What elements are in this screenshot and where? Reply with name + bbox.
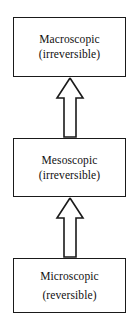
box-macroscopic-qualifier: (irreversible) xyxy=(39,47,100,62)
box-microscopic-qualifier: (reversible) xyxy=(42,286,96,305)
box-microscopic-label: Microscopic xyxy=(40,267,99,286)
level-hierarchy-diagram: Macroscopic (irreversible) Mesoscopic (i… xyxy=(0,0,138,329)
box-macroscopic: Macroscopic (irreversible) xyxy=(13,17,126,77)
arrow-mesoscopic-to-macroscopic-icon xyxy=(55,77,85,138)
arrow-microscopic-to-mesoscopic-icon xyxy=(55,197,85,258)
box-microscopic: Microscopic (reversible) xyxy=(13,258,126,313)
box-mesoscopic: Mesoscopic (irreversible) xyxy=(13,138,126,197)
up-arrow-shape xyxy=(55,197,85,258)
box-macroscopic-label: Macroscopic xyxy=(39,32,100,47)
box-mesoscopic-qualifier: (irreversible) xyxy=(39,168,100,183)
up-arrow-shape xyxy=(55,77,85,138)
box-mesoscopic-label: Mesoscopic xyxy=(42,153,98,168)
